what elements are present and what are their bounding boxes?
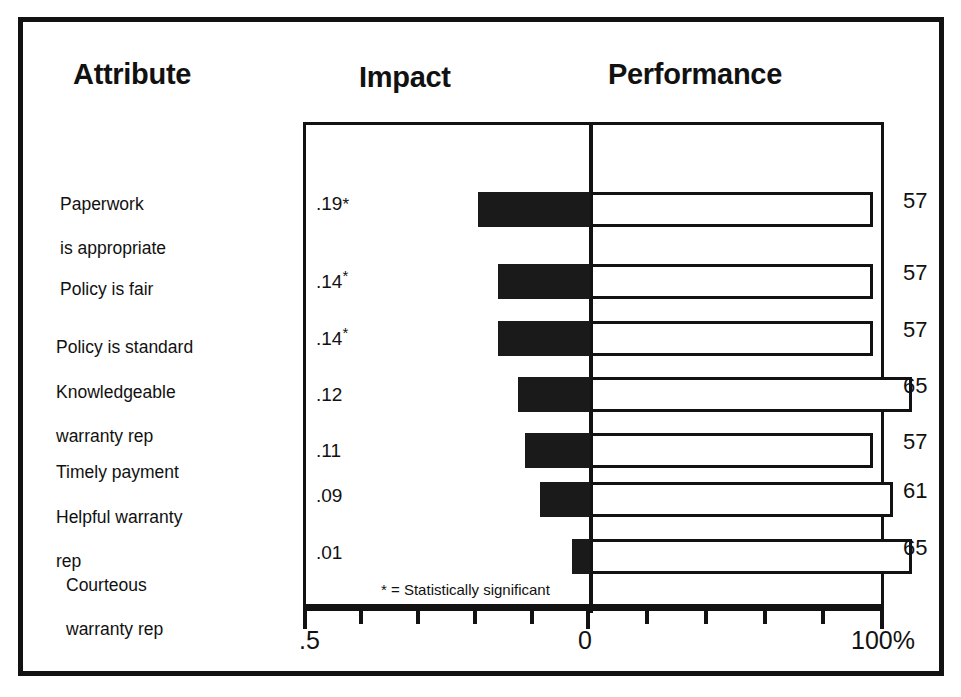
impact-value-row-6: .01: [316, 542, 342, 564]
performance-value-row-3: 65: [903, 373, 927, 399]
footnote: * = Statistically significant: [381, 581, 550, 598]
axis-label-center: 0: [578, 626, 592, 655]
heading-impact: Impact: [359, 61, 451, 94]
impact-bar-row-1: [498, 264, 592, 299]
axis-tick-left-4: [530, 611, 534, 624]
impact-value-row-3: .12: [316, 384, 342, 406]
significance-star: *: [342, 195, 349, 214]
axis-tick-left-3: [473, 611, 477, 624]
performance-bar-row-5: [590, 482, 893, 517]
bottom-axis: .5 0 100%: [303, 607, 884, 667]
performance-value-row-4: 57: [903, 429, 927, 455]
performance-value-row-1: 57: [903, 260, 927, 286]
impact-value-text: .14: [316, 271, 342, 292]
footnote-star-icon: *: [381, 581, 387, 598]
performance-bar-row-6: [590, 539, 912, 574]
impact-value-row-4: .11: [316, 440, 341, 462]
impact-bar-row-4: [525, 433, 592, 468]
attribute-line-1: Paperwork: [60, 193, 166, 215]
impact-value-text: .14: [316, 328, 342, 349]
attribute-line-1: Helpful warranty: [56, 506, 182, 528]
impact-bar-row-0: [478, 192, 592, 227]
attribute-label-row-6: Courteous warranty rep: [66, 552, 163, 662]
attribute-label-column: Paperwork is appropriate Policy is fair …: [52, 122, 297, 607]
performance-bar-row-2: [590, 321, 873, 356]
chart-page: Attribute Impact Performance Paperwork i…: [0, 0, 961, 697]
attribute-line-2: warranty rep: [66, 618, 163, 640]
impact-bar-row-5: [540, 482, 592, 517]
impact-value-text: .12: [316, 384, 342, 405]
axis-label-right: 100%: [851, 626, 915, 655]
axis-tick-right-4: [821, 611, 825, 624]
performance-value-row-0: 57: [903, 188, 927, 214]
attribute-line-1: Policy is standard: [56, 336, 193, 358]
heading-performance: Performance: [608, 58, 782, 91]
column-headings: Attribute Impact Performance: [18, 58, 944, 108]
performance-value-row-5: 61: [903, 478, 927, 504]
impact-value-text: .11: [316, 440, 341, 461]
significance-star: *: [342, 324, 348, 341]
impact-value-row-0: .19*: [316, 193, 349, 215]
axis-tick-right-1: [645, 611, 649, 624]
axis-tick-right-3: [763, 611, 767, 624]
axis-tick-right-2: [704, 611, 708, 624]
performance-bar-row-3: [590, 377, 912, 412]
impact-bar-row-6: [572, 539, 592, 574]
attribute-line-1: Policy is fair: [60, 278, 153, 300]
performance-value-row-6: 65: [903, 535, 927, 561]
impact-bar-row-2: [498, 321, 592, 356]
axis-tick-left-2: [416, 611, 420, 624]
performance-bar-row-0: [590, 192, 873, 227]
performance-bar-row-4: [590, 433, 873, 468]
heading-attribute: Attribute: [73, 58, 191, 91]
performance-value-row-2: 57: [903, 317, 927, 343]
impact-value-row-5: .09: [316, 485, 342, 507]
impact-value-text: .01: [316, 542, 342, 563]
attribute-label-row-1: Policy is fair: [60, 256, 153, 322]
impact-value-text: .19: [316, 193, 342, 214]
performance-bar-row-1: [590, 264, 873, 299]
attribute-line-1: Courteous: [66, 574, 163, 596]
attribute-line-1: Knowledgeable: [56, 381, 176, 403]
impact-value-row-1: .14*: [316, 271, 348, 293]
impact-bar-row-3: [518, 377, 592, 412]
plot-area: .19* .14* .14* .12 .11 .09 .01: [303, 122, 884, 607]
axis-line: [303, 607, 884, 611]
significance-star: *: [342, 267, 348, 284]
axis-label-left: .5: [299, 626, 320, 655]
attribute-line-1: Timely payment: [56, 461, 179, 483]
footnote-text: = Statistically significant: [391, 581, 550, 598]
impact-value-row-2: .14*: [316, 328, 348, 350]
axis-tick-left-1: [359, 611, 363, 624]
impact-value-text: .09: [316, 485, 342, 506]
